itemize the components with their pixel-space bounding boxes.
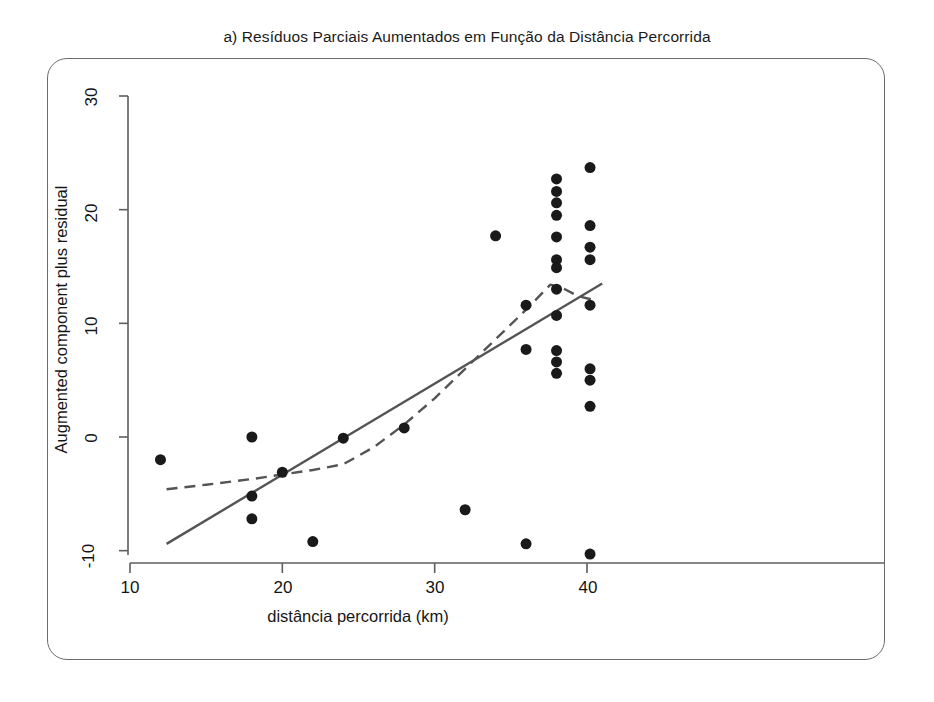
data-point	[246, 432, 257, 443]
data-point	[585, 162, 596, 173]
x-axis-ticks	[130, 563, 587, 573]
data-point	[585, 242, 596, 253]
data-point	[155, 454, 166, 465]
data-point	[490, 230, 501, 241]
plot-canvas	[0, 0, 934, 702]
axis-lines	[128, 96, 885, 563]
data-point	[307, 536, 318, 547]
data-point	[551, 197, 562, 208]
data-point	[551, 368, 562, 379]
smoothed-curve	[167, 285, 597, 490]
data-point	[585, 549, 596, 560]
data-point	[521, 344, 532, 355]
data-point	[551, 210, 562, 221]
data-point	[551, 231, 562, 242]
regression-line	[167, 284, 603, 544]
data-point	[338, 433, 349, 444]
figure-container: a) Resíduos Parciais Aumentados em Funçã…	[0, 0, 934, 702]
data-point	[521, 538, 532, 549]
data-point	[585, 300, 596, 311]
data-point	[551, 186, 562, 197]
data-point	[551, 310, 562, 321]
data-point	[246, 513, 257, 524]
data-point	[585, 375, 596, 386]
data-point	[585, 254, 596, 265]
data-point	[399, 422, 410, 433]
data-point	[585, 363, 596, 374]
data-point	[551, 173, 562, 184]
data-point	[551, 284, 562, 295]
data-point	[521, 300, 532, 311]
data-point	[551, 356, 562, 367]
series-layer	[167, 284, 603, 544]
data-point	[246, 491, 257, 502]
data-point	[585, 220, 596, 231]
y-axis-ticks	[119, 96, 128, 551]
data-point	[585, 401, 596, 412]
scatter-points-layer	[155, 162, 596, 559]
data-point	[460, 504, 471, 515]
data-point	[551, 345, 562, 356]
data-point	[277, 467, 288, 478]
data-point	[551, 262, 562, 273]
